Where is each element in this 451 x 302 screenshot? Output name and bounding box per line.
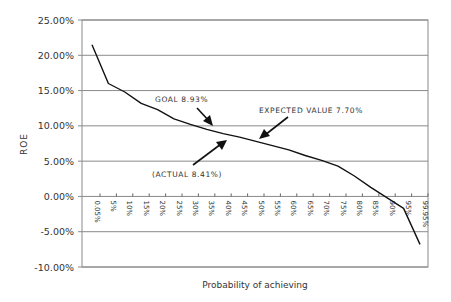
y-tick-label: -5.00%	[40, 226, 74, 237]
gridlines	[82, 20, 428, 267]
y-tick-label: 0.00%	[44, 191, 74, 202]
annotation-goal: GOAL 8.93%	[155, 95, 213, 126]
x-tick-label: 45%	[240, 200, 248, 216]
annotation-actual: (ACTUAL 8.41%)	[152, 140, 227, 179]
y-tick-label: 5.00%	[44, 156, 74, 167]
x-tick-label: 65%	[306, 200, 314, 216]
x-tick-label: 35%	[207, 200, 215, 216]
x-tick-label: 99.95%	[421, 200, 429, 227]
annotation-actual-label: (ACTUAL 8.41%)	[152, 170, 222, 179]
arrow-icon	[216, 140, 227, 150]
y-axis-ticks: 25.00%20.00%15.00%10.00%5.00%0.00%-5.00%…	[34, 15, 82, 273]
y-tick-label: 15.00%	[38, 85, 74, 96]
annotation-goal-label: GOAL 8.93%	[155, 95, 208, 104]
roe-probability-chart: 25.00%20.00%15.00%10.00%5.00%0.00%-5.00%…	[0, 0, 451, 302]
x-tick-label: 70%	[322, 200, 330, 216]
y-tick-label: 10.00%	[38, 120, 74, 131]
x-tick-label: 25%	[175, 200, 183, 216]
annotation-expected: EXPECTED VALUE 7.70%	[259, 106, 363, 139]
x-tick-label: 50%	[257, 200, 265, 216]
arrow-icon	[259, 129, 270, 139]
y-tick-label: 20.00%	[38, 50, 74, 61]
x-tick-label: 30%	[191, 200, 199, 216]
x-tick-label: 40%	[224, 200, 232, 216]
x-tick-label: 75%	[339, 200, 347, 216]
x-tick-label: 80%	[355, 200, 363, 216]
x-tick-label: 95%	[404, 200, 412, 216]
x-tick-label: 20%	[158, 200, 166, 216]
annotation-expected-label: EXPECTED VALUE 7.70%	[259, 106, 363, 115]
x-axis-ticks: 0.05%5%10%15%20%25%30%35%40%45%50%55%60%…	[93, 193, 429, 227]
x-tick-label: 60%	[289, 200, 297, 216]
x-tick-label: 0.05%	[93, 200, 101, 223]
y-tick-label: -10.00%	[34, 262, 74, 273]
y-axis-title: ROE	[19, 133, 29, 155]
x-axis-title: Probability of achieving	[202, 280, 307, 290]
x-tick-label: 85%	[371, 200, 379, 216]
roe-curve	[92, 45, 420, 245]
x-tick-label: 5%	[109, 200, 117, 211]
x-tick-label: 15%	[142, 200, 150, 216]
x-tick-label: 55%	[273, 200, 281, 216]
y-tick-label: 25.00%	[38, 15, 74, 26]
plot-frame	[82, 20, 428, 267]
x-tick-label: 10%	[125, 200, 133, 216]
